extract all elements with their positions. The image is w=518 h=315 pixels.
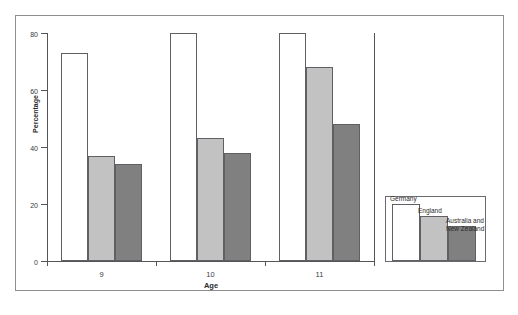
plot-right-rule [374,33,375,262]
legend-label: Australia and New Zealand [446,217,484,232]
legend-swatch [392,204,420,261]
y-axis-tick-label: 0 [34,258,38,265]
x-axis-tick [47,261,48,266]
x-axis-line [47,261,375,262]
plot-area [47,33,374,261]
x-axis-tick-label: 11 [300,270,340,279]
x-axis-title: Age [47,281,375,290]
y-axis-tick-label: 60 [30,87,38,94]
y-axis-tick-label: 80 [30,30,38,37]
bar [170,33,197,261]
figure: 020406080 Percentage 91011 Age GermanyEn… [0,0,518,315]
x-axis-tick-label: 10 [191,270,231,279]
bar [61,53,88,261]
y-axis-tick-label: 20 [30,201,38,208]
x-axis-tick-label: 9 [82,270,122,279]
legend-label: England [418,207,442,215]
bar [224,153,251,261]
y-axis-title: Percentage [32,95,39,133]
y-axis-tick-label: 40 [30,144,38,151]
legend-swatch [420,216,448,261]
bar [333,124,360,261]
bar [88,156,115,261]
legend-label: Germany [390,195,417,203]
x-axis-tick [374,261,375,266]
bar [115,164,142,261]
x-axis-tick [265,261,266,266]
bar [279,33,306,261]
x-axis-tick [156,261,157,266]
bar [306,67,333,261]
bar [197,138,224,261]
